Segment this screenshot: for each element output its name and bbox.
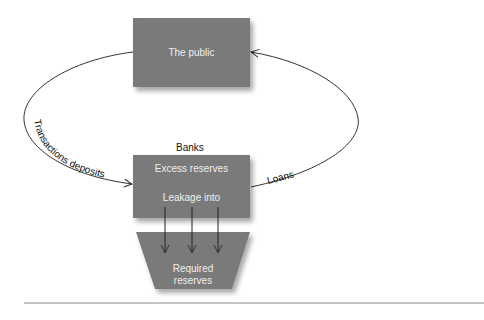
public-label: The public	[133, 47, 250, 59]
deposits-label: Transactions deposits	[32, 118, 106, 179]
banks-title: Banks	[176, 142, 204, 153]
required-label-1: Required	[136, 263, 250, 275]
loans-arrow	[251, 52, 358, 187]
excess-reserves-label: Excess reserves	[133, 163, 250, 175]
loans-label: Loans	[266, 169, 295, 186]
leakage-label: Leakage into	[133, 192, 250, 204]
required-label-2: reserves	[136, 275, 250, 287]
